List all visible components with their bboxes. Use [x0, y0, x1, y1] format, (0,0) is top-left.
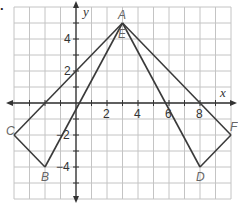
point-label-d: D: [196, 170, 205, 184]
y-tick-label: 2: [64, 64, 71, 78]
x-axis-label: x: [219, 85, 226, 100]
point-label-c: C: [6, 124, 15, 138]
point-label-f: F: [230, 120, 238, 134]
x-tick-label: 2: [103, 107, 110, 121]
point-label-b: B: [41, 170, 49, 184]
x-axis-right-arrow-icon: [230, 100, 237, 106]
segment-be: [45, 23, 123, 167]
y-tick-label: 4: [64, 32, 71, 46]
x-tick-label: 8: [196, 107, 203, 121]
x-axis-left-arrow-icon: [6, 100, 13, 106]
y-axis-up-arrow-icon: [73, 1, 79, 8]
point-label-e: E: [118, 27, 127, 41]
coordinate-graph: 2 4 6 8 4 2 −2 −4 x y A E B C D F: [0, 0, 238, 208]
segment-de: [123, 23, 201, 167]
point-label-a: A: [117, 8, 126, 22]
y-axis-label: y: [81, 4, 89, 19]
y-axis: [73, 1, 79, 203]
x-tick-label: 4: [134, 107, 141, 121]
y-tick-label: −4: [56, 160, 70, 174]
